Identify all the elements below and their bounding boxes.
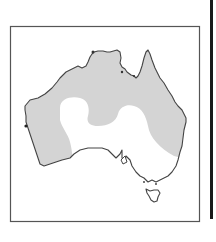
coastal-island-marker (24, 124, 27, 127)
coastal-island-marker (92, 51, 95, 54)
coastal-island-marker (133, 75, 135, 77)
bass-strait-island (155, 183, 157, 185)
bass-strait-island (143, 181, 145, 183)
australia-distribution-map (0, 0, 216, 242)
coastal-island-marker (121, 71, 123, 73)
